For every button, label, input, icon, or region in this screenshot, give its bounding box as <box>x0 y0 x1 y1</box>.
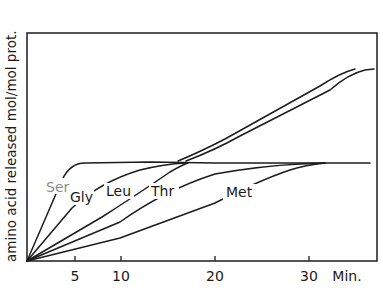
label-ser: Ser <box>46 179 70 195</box>
curve-thr <box>27 163 325 261</box>
curve-met <box>27 163 325 261</box>
label-thr: Thr <box>150 183 174 199</box>
x-tick-label-5: 5 <box>71 268 80 284</box>
y-axis-label: amino acid released mol/mol prot. <box>3 30 19 262</box>
x-tick-label-30: 30 <box>300 268 318 284</box>
curve-ser <box>27 162 370 261</box>
label-leu: Leu <box>106 183 131 199</box>
label-gly: Gly <box>70 189 93 205</box>
plot-frame <box>27 33 377 261</box>
curve-leu <box>27 163 188 261</box>
x-tick-label-10: 10 <box>112 268 130 284</box>
x-axis-unit: Min. <box>332 268 361 284</box>
label-met: Met <box>226 184 253 200</box>
chart: 5 10 20 30 Min. amino acid released mol/… <box>0 0 383 288</box>
x-tick-label-20: 20 <box>206 268 224 284</box>
curve-upper-2 <box>186 69 374 161</box>
curve-upper-1 <box>178 69 355 161</box>
